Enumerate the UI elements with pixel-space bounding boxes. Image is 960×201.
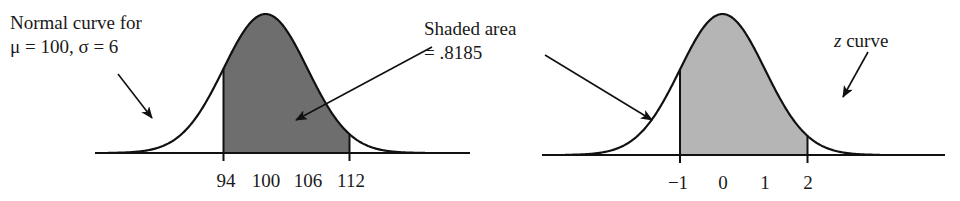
right-tick-label: 1 bbox=[760, 172, 770, 194]
right-tick-label: −1 bbox=[668, 172, 688, 194]
z-curve-label: z curve bbox=[834, 30, 888, 52]
left-curve-label-arrow bbox=[118, 74, 152, 118]
left-tick-label: 100 bbox=[252, 170, 281, 192]
left-tick-label: 112 bbox=[337, 170, 365, 192]
left-normal-chart bbox=[95, 14, 470, 161]
z-curve-label-text: curve bbox=[841, 30, 888, 51]
shaded-area-label-line2: = .8185 bbox=[424, 42, 482, 64]
shaded-area-arrow-left bbox=[296, 47, 432, 120]
shaded-area-label-line1: Shaded area bbox=[424, 18, 516, 40]
left-curve-label-line2: μ = 100, σ = 6 bbox=[10, 36, 118, 58]
left-tick-label: 94 bbox=[217, 170, 236, 192]
shaded-area-arrow-right bbox=[545, 55, 652, 120]
right-tick-label: 2 bbox=[803, 172, 813, 194]
left-curve-label-line1: Normal curve for bbox=[10, 12, 142, 34]
right-tick-label: 0 bbox=[718, 172, 728, 194]
z-curve-label-arrow bbox=[843, 52, 868, 97]
left-tick-label: 106 bbox=[294, 170, 323, 192]
